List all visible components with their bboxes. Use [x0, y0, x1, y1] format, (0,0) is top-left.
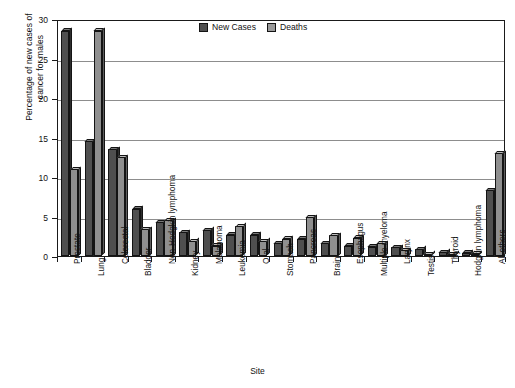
bar-face — [94, 31, 102, 256]
x-axis-category-label: Lung — [96, 258, 106, 276]
bar-face — [368, 247, 376, 256]
bar-face — [85, 141, 93, 256]
x-axis-category-label: Oral — [261, 248, 271, 264]
x-axis-category-label: Kidney — [190, 251, 200, 276]
x-axis-tick-mark — [57, 257, 58, 262]
bar-new-cases — [156, 222, 164, 256]
bar-face — [486, 190, 494, 256]
y-axis-tick-label: 5 — [8, 213, 48, 223]
bar-face — [321, 243, 329, 256]
bar-face — [61, 31, 69, 256]
plot-area — [57, 20, 505, 257]
bar-new-cases — [344, 246, 352, 256]
x-axis-category-label: Prostate — [72, 233, 82, 264]
bar-new-cases — [439, 252, 447, 256]
x-axis-category-label: Bladder — [143, 247, 153, 276]
y-axis-tick-label: 25 — [8, 55, 48, 65]
bar-new-cases — [108, 149, 116, 256]
legend-swatch-newcases — [199, 23, 208, 32]
bar-chart-figure: Percentage of new cases of cancer for ma… — [0, 0, 515, 388]
bar-new-cases — [203, 230, 211, 256]
bar-face — [415, 249, 423, 256]
bar-face — [391, 247, 399, 256]
bar-face — [226, 235, 234, 256]
bar-top — [415, 247, 426, 250]
bar-face — [132, 209, 140, 256]
bar-side — [102, 28, 105, 255]
bar-new-cases — [297, 239, 305, 256]
bar-new-cases — [85, 141, 93, 256]
x-axis-category-label: Pancreas — [308, 229, 318, 264]
bar-top — [188, 239, 199, 242]
x-axis-category-label: Non-Hodgkin lymphoma — [167, 175, 177, 264]
bar-new-cases — [274, 243, 282, 256]
x-axis-category-label: Leukemia — [237, 240, 247, 276]
x-axis-category-label: Multiple myeloma — [379, 211, 389, 276]
legend-swatch-deaths — [267, 23, 276, 32]
bar-face — [439, 252, 447, 256]
x-axis-category-label: Thyroid — [450, 236, 460, 264]
bar-new-cases — [462, 253, 470, 256]
bar-face — [250, 235, 258, 256]
bar-face — [297, 239, 305, 256]
legend-label-newcases: New Cases — [212, 22, 256, 32]
x-axis-category-label: All others — [497, 229, 507, 264]
bar-top — [71, 167, 82, 170]
x-axis-category-label: Esophagus — [355, 222, 365, 264]
chart-legend: New CasesDeaths — [199, 22, 307, 32]
y-axis-title: Percentage of new cases of cancer for ma… — [20, 0, 50, 172]
bar-face — [329, 235, 337, 256]
x-axis-category-label: Stomach — [285, 243, 295, 276]
bar-new-cases — [321, 243, 329, 256]
y-axis-tick-label: 10 — [8, 173, 48, 183]
y-axis-tick-label: 20 — [8, 94, 48, 104]
bar-face — [203, 230, 211, 256]
legend-entry-deaths: Deaths — [267, 22, 307, 32]
bar-new-cases — [250, 235, 258, 256]
bar-deaths — [329, 235, 337, 256]
bar-face — [156, 222, 164, 256]
x-axis-category-label: Colorectal — [120, 227, 130, 264]
bar-face — [344, 246, 352, 256]
bar-face — [274, 243, 282, 256]
bar-new-cases — [226, 235, 234, 256]
y-axis-tick-label: 0 — [8, 252, 48, 262]
bar-series-container — [58, 21, 504, 256]
y-axis-tick-label: 30 — [8, 15, 48, 25]
bar-face — [179, 232, 187, 256]
x-axis-title: Site — [0, 366, 515, 376]
bar-face — [462, 253, 470, 256]
y-axis-tick-label: 15 — [8, 134, 48, 144]
bar-new-cases — [368, 247, 376, 256]
bar-new-cases — [486, 190, 494, 256]
bar-top — [236, 224, 247, 227]
legend-entry-newcases: New Cases — [199, 22, 256, 32]
x-axis-category-label: Melanoma — [214, 225, 224, 264]
bar-side — [338, 233, 341, 256]
bar-face — [108, 149, 116, 256]
x-axis-category-label: Hodgkin lymphoma — [473, 205, 483, 276]
y-axis-title-text: Percentage of new cases of cancer for ma… — [24, 13, 46, 121]
bar-new-cases — [391, 247, 399, 256]
bar-new-cases — [132, 209, 140, 256]
x-axis-category-label: Larynx — [402, 239, 412, 264]
x-axis-category-label: Testis — [426, 255, 436, 276]
bar-new-cases — [415, 249, 423, 256]
bar-new-cases — [61, 31, 69, 256]
legend-label-deaths: Deaths — [280, 22, 307, 32]
bar-deaths — [94, 31, 102, 256]
bar-new-cases — [179, 232, 187, 256]
x-axis-category-label: Brain — [332, 257, 342, 276]
